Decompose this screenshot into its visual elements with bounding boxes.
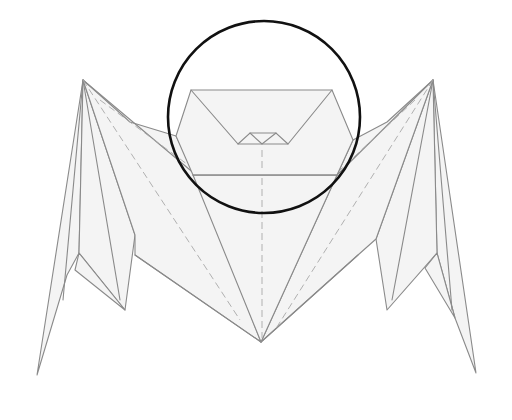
left-wing-outer-flap bbox=[37, 80, 83, 375]
origami-bat-diagram bbox=[0, 0, 512, 420]
bat-drawing bbox=[0, 0, 512, 420]
right-wing-outer-flap bbox=[433, 80, 476, 373]
head bbox=[176, 90, 353, 175]
